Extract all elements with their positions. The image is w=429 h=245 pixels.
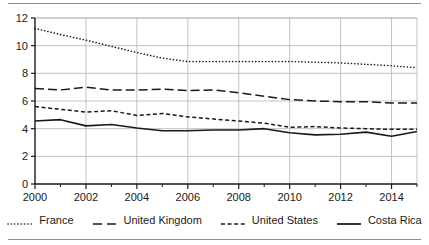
y-tick-label: 0 (22, 178, 28, 190)
x-tick-label: 2002 (74, 191, 98, 203)
legend-label-france: France (39, 214, 73, 226)
y-tick-label: 12 (16, 12, 28, 24)
short-dash-line-icon (220, 215, 246, 225)
legend-item-france: France (7, 214, 73, 226)
dotted-line-icon (7, 215, 33, 225)
x-tick-label: 2012 (328, 191, 352, 203)
y-tick-label: 6 (22, 95, 28, 107)
data-series-group (35, 28, 417, 136)
legend-label-costa-rica: Costa Rica (368, 214, 422, 226)
legend-label-united-kingdom: United Kingdom (124, 214, 202, 226)
chart-legend: France United Kingdom United States Cost… (0, 209, 429, 231)
x-axis-tick-labels: 20002002200420062008201020122014 (23, 191, 404, 203)
top-divider-rule (8, 3, 421, 4)
legend-item-costa-rica: Costa Rica (336, 214, 422, 226)
tick-marks-group (31, 18, 417, 189)
x-tick-label: 2006 (176, 191, 200, 203)
legend-item-united-states: United States (220, 214, 318, 226)
solid-line-icon (336, 215, 362, 225)
plot-area-container: 024681012 200020022004200620082010201220… (0, 8, 429, 204)
x-tick-label: 2014 (379, 191, 403, 203)
bottom-divider-rule (8, 239, 421, 240)
y-tick-label: 8 (22, 67, 28, 79)
legend-item-united-kingdom: United Kingdom (92, 214, 202, 226)
x-tick-label: 2008 (226, 191, 250, 203)
y-axis-tick-labels: 024681012 (16, 12, 28, 190)
chart-figure: 024681012 200020022004200620082010201220… (0, 0, 429, 245)
series-line-france (35, 28, 417, 67)
line-chart-svg: 024681012 200020022004200620082010201220… (0, 8, 429, 204)
y-tick-label: 10 (16, 40, 28, 52)
x-tick-label: 2000 (23, 191, 47, 203)
y-tick-label: 4 (22, 123, 28, 135)
y-tick-label: 2 (22, 150, 28, 162)
x-tick-label: 2010 (277, 191, 301, 203)
legend-label-united-states: United States (252, 214, 318, 226)
x-tick-label: 2004 (125, 191, 149, 203)
long-dash-line-icon (92, 215, 118, 225)
